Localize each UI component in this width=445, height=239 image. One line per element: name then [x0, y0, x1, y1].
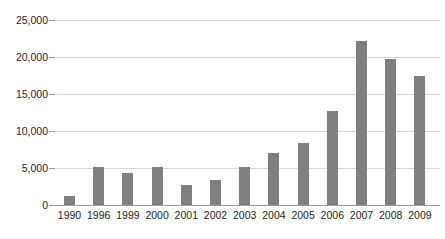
- bar: [93, 167, 104, 205]
- bar: [385, 59, 396, 205]
- y-axis-tick-label: 0: [0, 199, 48, 211]
- plot-area: [55, 20, 440, 205]
- bar: [239, 167, 250, 205]
- bar: [122, 173, 133, 205]
- bar: [152, 167, 163, 205]
- bar: [414, 76, 425, 206]
- bar-chart: 25,000 20,000 15,000 10,000 5,000 0 1990…: [0, 0, 445, 239]
- bar: [210, 180, 221, 205]
- y-axis-tick-label: 25,000: [0, 14, 48, 26]
- bar: [327, 111, 338, 205]
- y-axis: 25,000 20,000 15,000 10,000 5,000 0: [0, 0, 48, 239]
- y-axis-tick-label: 20,000: [0, 51, 48, 63]
- y-axis-tick-label: 10,000: [0, 125, 48, 137]
- axis-baseline: [55, 205, 440, 206]
- x-axis-tick-label: 2009: [400, 209, 440, 221]
- y-axis-tick-label: 5,000: [0, 162, 48, 174]
- bar: [64, 196, 75, 205]
- bar: [268, 153, 279, 205]
- bar: [181, 185, 192, 205]
- y-axis-tick-label: 15,000: [0, 88, 48, 100]
- x-axis: 1990199619992000200120022003200420052006…: [55, 209, 440, 229]
- bars-layer: [55, 20, 440, 205]
- bar: [356, 41, 367, 205]
- bar: [298, 143, 309, 205]
